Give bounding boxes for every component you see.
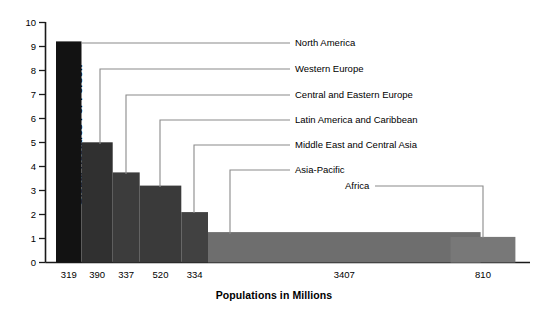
plot-area xyxy=(0,0,548,312)
x-tick-label-3407: 3407 xyxy=(334,270,355,280)
bar-africa xyxy=(451,237,516,263)
bar-asia-pacific xyxy=(208,232,481,262)
region-label-asia-pacific: Asia-Pacific xyxy=(295,165,345,175)
leader-line-africa xyxy=(375,186,483,238)
leader-line-middle-east-central-asia xyxy=(194,145,290,213)
x-tick-label-334: 334 xyxy=(187,270,203,280)
bar-north-america xyxy=(56,41,82,262)
region-label-middle-east-central-asia: Middle East and Central Asia xyxy=(295,140,417,150)
x-tick-label-520: 520 xyxy=(153,270,169,280)
x-tick-label-319: 319 xyxy=(61,270,77,280)
bar-middle-east-central-asia xyxy=(181,212,208,262)
x-axis-title: Populations in Millions xyxy=(0,289,548,301)
region-label-western-europe: Western Europe xyxy=(295,64,363,74)
leader-line-asia-pacific xyxy=(230,170,290,234)
region-label-north-america: North America xyxy=(295,38,355,48)
x-tick-label-390: 390 xyxy=(89,270,105,280)
region-label-africa: Africa xyxy=(345,181,369,191)
region-label-latin-america-caribbean: Latin America and Caribbean xyxy=(295,115,418,125)
leader-line-central-eastern-europe xyxy=(126,95,290,174)
bars-group xyxy=(56,41,515,262)
bar-chart: Global Hectares Per Person 10 9 8 7 6 5 … xyxy=(0,0,548,312)
bar-western-europe xyxy=(82,142,113,262)
region-label-central-eastern-europe: Central and Eastern Europe xyxy=(295,90,413,100)
y-axis-ticks xyxy=(39,23,46,263)
leader-line-latin-america-caribbean xyxy=(160,120,290,187)
leader-line-western-europe xyxy=(100,69,290,144)
x-tick-label-337: 337 xyxy=(118,270,134,280)
x-tick-label-810: 810 xyxy=(475,270,491,280)
bar-latin-america-caribbean xyxy=(140,186,182,263)
bar-central-eastern-europe xyxy=(113,172,140,262)
